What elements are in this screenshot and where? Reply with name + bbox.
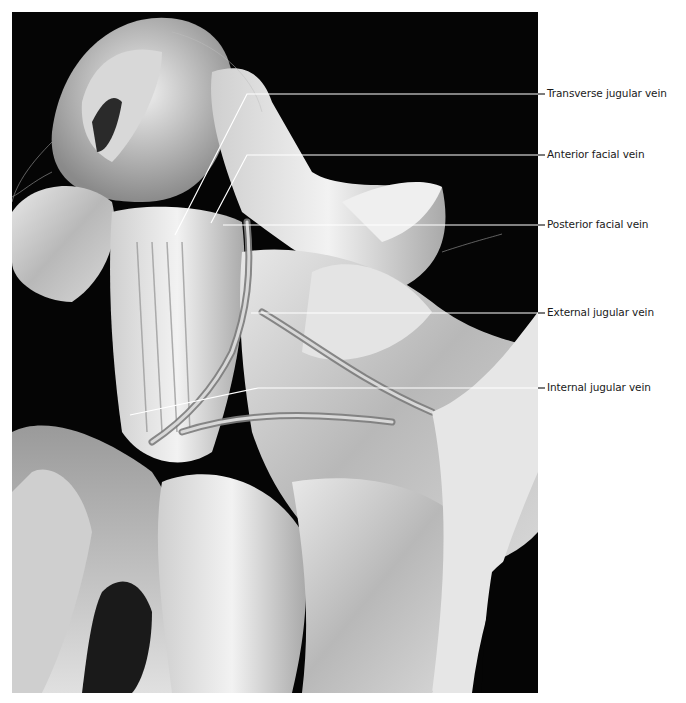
label-transverse-jugular-vein: Transverse jugular vein — [547, 87, 667, 99]
tissue-illustration — [12, 12, 538, 693]
dissection-photograph — [12, 12, 538, 693]
label-posterior-facial-vein: Posterior facial vein — [547, 218, 648, 230]
label-internal-jugular-vein: Internal jugular vein — [547, 381, 651, 393]
label-anterior-facial-vein: Anterior facial vein — [547, 148, 644, 160]
label-external-jugular-vein: External jugular vein — [547, 306, 654, 318]
